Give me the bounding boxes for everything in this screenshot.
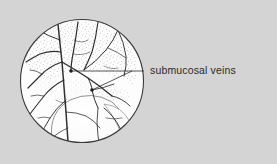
illustration-canvas (0, 0, 277, 164)
figure-root: submucosal veins (0, 0, 277, 164)
upper-vein-marker (69, 69, 73, 73)
lower-vein-marker (90, 88, 94, 92)
submucosal-veins-label: submucosal veins (150, 64, 236, 76)
